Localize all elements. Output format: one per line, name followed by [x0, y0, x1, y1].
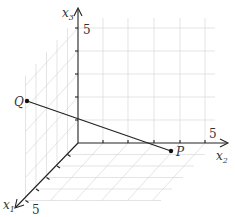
grid-x1x3-plane: [26, 28, 79, 201]
x1-axis-label: x1: [3, 198, 15, 214]
x2-axis-label: x2: [216, 149, 228, 165]
coordinate-diagram: x3 5 x2 5 x1 5 Q P: [0, 0, 235, 217]
point-q-label: Q: [14, 95, 24, 109]
x3-axis-label: x3: [62, 6, 74, 22]
point-p-label: P: [175, 145, 185, 159]
x3-tick-label: 5: [83, 23, 91, 37]
grid-x2x3-plane: [78, 18, 215, 143]
x1-tick-label: 5: [32, 203, 40, 217]
point-q: [25, 99, 29, 103]
point-p: [169, 149, 173, 153]
x2-tick-label: 5: [209, 127, 217, 141]
